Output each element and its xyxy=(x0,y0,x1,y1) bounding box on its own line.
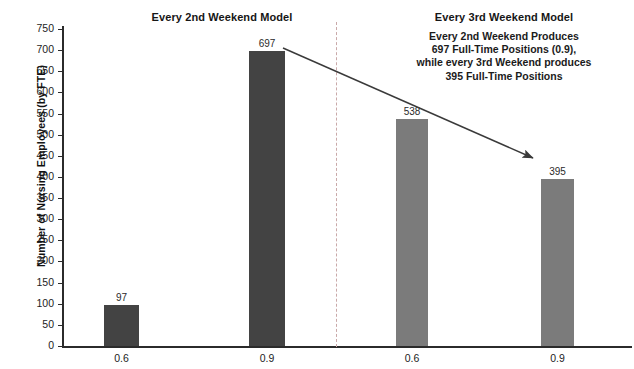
y-tick-mark xyxy=(58,346,62,347)
callout-line: while every 3rd Weekend produces xyxy=(378,56,630,69)
bar[interactable] xyxy=(396,119,428,346)
y-tick-label: 400 xyxy=(14,170,54,182)
y-tick-label: 650 xyxy=(14,64,54,76)
y-tick-mark xyxy=(58,261,62,262)
y-tick-mark xyxy=(58,114,62,115)
comparison-callout: Every 2nd Weekend Produces697 Full-Time … xyxy=(378,30,630,83)
bar-value-label: 538 xyxy=(374,106,450,117)
y-tick-mark xyxy=(58,219,62,220)
x-axis-line xyxy=(62,346,632,348)
y-tick-mark xyxy=(58,177,62,178)
y-tick-label: 350 xyxy=(14,191,54,203)
y-tick-mark xyxy=(58,92,62,93)
y-tick-mark xyxy=(58,283,62,284)
bar-value-label: 395 xyxy=(519,166,596,177)
bar-value-label: 97 xyxy=(82,292,161,303)
bar-value-label: 697 xyxy=(227,38,307,49)
y-axis-line xyxy=(62,26,64,348)
y-tick-mark xyxy=(58,50,62,51)
y-tick-label: 550 xyxy=(14,107,54,119)
callout-line: 395 Full-Time Positions xyxy=(378,70,630,83)
y-tick-label: 150 xyxy=(14,276,54,288)
y-tick-label: 200 xyxy=(14,254,54,266)
panel-title-left: Every 2nd Weekend Model xyxy=(122,11,322,23)
y-tick-label: 500 xyxy=(14,128,54,140)
y-tick-label: 250 xyxy=(14,233,54,245)
callout-line: Every 2nd Weekend Produces xyxy=(378,30,630,43)
callout-line: 697 Full-Time Positions (0.9), xyxy=(378,43,630,56)
y-tick-label: 450 xyxy=(14,149,54,161)
y-tick-label: 50 xyxy=(14,318,54,330)
panel-divider xyxy=(336,22,337,347)
x-tick-label: 0.6 xyxy=(364,352,460,364)
y-tick-mark xyxy=(58,304,62,305)
bar-chart: Every 2nd Weekend Model Every 3rd Weeken… xyxy=(0,0,634,369)
bar[interactable] xyxy=(104,305,139,346)
y-tick-mark xyxy=(58,71,62,72)
y-tick-mark xyxy=(58,325,62,326)
x-tick-label: 0.9 xyxy=(509,352,606,364)
y-tick-mark xyxy=(58,29,62,30)
y-tick-label: 0 xyxy=(14,339,54,351)
panel-title-right: Every 3rd Weekend Model xyxy=(404,11,604,23)
bar[interactable] xyxy=(249,51,285,346)
y-tick-label: 750 xyxy=(14,22,54,34)
y-tick-mark xyxy=(58,240,62,241)
x-tick-label: 0.9 xyxy=(217,352,317,364)
y-tick-label: 700 xyxy=(14,43,54,55)
y-tick-label: 300 xyxy=(14,212,54,224)
cropped-header-remnant xyxy=(0,0,634,4)
x-tick-label: 0.6 xyxy=(72,352,171,364)
y-tick-label: 100 xyxy=(14,297,54,309)
y-tick-label: 600 xyxy=(14,85,54,97)
y-tick-mark xyxy=(58,198,62,199)
bar[interactable] xyxy=(541,179,574,346)
y-tick-mark xyxy=(58,156,62,157)
y-tick-mark xyxy=(58,135,62,136)
